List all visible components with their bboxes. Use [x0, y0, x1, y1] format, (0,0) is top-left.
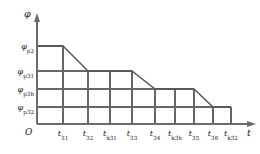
xtick-label-tk31: tk31: [103, 129, 117, 137]
ytick-label-phi-p31: φp31: [18, 67, 34, 75]
xtick-sub-t32: 32: [86, 135, 93, 141]
y-axis-label: φ: [24, 9, 31, 19]
ytick-base-phi-p3h: φ: [18, 84, 24, 94]
xtick-sub-tk3h: k3h: [171, 135, 182, 141]
xtick-label-t31: t31: [58, 129, 68, 137]
origin-label: O: [25, 128, 32, 137]
ytick-sub-phi-p3h: p3h: [23, 91, 34, 97]
ytick-sub-phi-p31: p31: [23, 73, 34, 79]
level-gridlines: [37, 46, 231, 107]
xtick-label-t33: t33: [127, 129, 137, 137]
xtick-label-t36: t36: [208, 129, 218, 137]
xtick-label-t35: t35: [189, 129, 199, 137]
xtick-label-tk32: tk32: [224, 129, 238, 137]
axes-lines: [37, 20, 249, 124]
ytick-sub-phi-p2: p2: [27, 48, 34, 54]
phi-time-diagram: φ t O φp2 φp31 φp3h φp32 t31 t32 tk31 t3…: [0, 0, 260, 154]
ytick-label-phi-p2: φp2: [21, 42, 34, 50]
xtick-sub-t33: 33: [130, 135, 137, 141]
xtick-sub-tk31: k31: [106, 135, 117, 141]
xtick-sub-t34: 34: [153, 135, 160, 141]
xtick-sub-tk32: k32: [227, 135, 238, 141]
ytick-label-phi-p3h: φp3h: [18, 85, 34, 93]
xtick-label-t32: t32: [83, 129, 93, 137]
ytick-base-phi-p2: φ: [21, 41, 27, 51]
ytick-base-phi-p31: φ: [18, 66, 24, 76]
ytick-base-phi-p32: φ: [18, 102, 24, 112]
xtick-sub-t36: 36: [211, 135, 218, 141]
x-axis-label: t: [247, 128, 251, 138]
xtick-label-t34: t34: [150, 129, 160, 137]
xtick-sub-t35: 35: [192, 135, 199, 141]
y-axis-arrow: [34, 13, 40, 22]
ytick-label-phi-p32: φp32: [18, 103, 34, 111]
ytick-sub-phi-p32: p32: [23, 109, 34, 115]
phi-profile-curve: [37, 46, 231, 107]
time-gridlines: [63, 46, 231, 124]
xtick-label-tk3h: tk3h: [168, 129, 182, 137]
xtick-sub-t31: 31: [61, 135, 68, 141]
